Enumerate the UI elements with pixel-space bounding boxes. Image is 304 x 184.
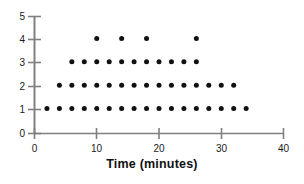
data-point: [157, 59, 162, 64]
data-point: [194, 106, 199, 111]
data-point: [231, 83, 236, 88]
data-point: [144, 83, 149, 88]
data-point-group: [44, 36, 248, 111]
data-point: [94, 106, 99, 111]
data-point: [119, 83, 124, 88]
data-point: [169, 83, 174, 88]
data-point: [181, 59, 186, 64]
x-tick-label-20: 20: [153, 143, 165, 154]
data-point: [194, 36, 199, 41]
y-tick-label-0: 0: [19, 128, 25, 139]
data-point: [231, 106, 236, 111]
x-tick-label-30: 30: [216, 143, 228, 154]
x-tick-label-0: 0: [32, 143, 38, 154]
dot-plot-chart: 5 4 3 2 1 0 0 10 20 30 40 Time (minutes): [0, 0, 304, 184]
data-point: [181, 83, 186, 88]
data-point: [219, 106, 224, 111]
data-point: [119, 106, 124, 111]
data-point: [57, 83, 62, 88]
data-point: [94, 83, 99, 88]
data-point: [169, 59, 174, 64]
data-point: [119, 59, 124, 64]
data-point: [82, 83, 87, 88]
data-point: [157, 83, 162, 88]
data-point: [144, 106, 149, 111]
data-point: [144, 59, 149, 64]
data-point: [69, 59, 74, 64]
data-point: [144, 36, 149, 41]
data-point: [107, 83, 112, 88]
data-point: [107, 59, 112, 64]
data-point: [132, 59, 137, 64]
data-point: [94, 36, 99, 41]
data-point: [169, 106, 174, 111]
data-point: [94, 59, 99, 64]
x-axis-tick-labels: 0 10 20 30 40: [32, 143, 290, 154]
data-point: [132, 83, 137, 88]
data-point: [157, 106, 162, 111]
y-axis-tick-labels: 5 4 3 2 1 0: [19, 11, 25, 139]
data-point: [244, 106, 249, 111]
data-point: [119, 36, 124, 41]
data-point: [219, 83, 224, 88]
data-point: [206, 83, 211, 88]
y-tick-label-5: 5: [19, 11, 25, 22]
y-tick-label-2: 2: [19, 81, 25, 92]
data-point: [69, 83, 74, 88]
y-tick-label-4: 4: [19, 34, 25, 45]
data-point: [181, 106, 186, 111]
data-point: [57, 106, 62, 111]
data-point: [82, 106, 87, 111]
y-tick-label-3: 3: [19, 57, 25, 68]
x-tick-label-40: 40: [278, 143, 290, 154]
data-point: [194, 83, 199, 88]
x-axis-title: Time (minutes): [0, 157, 304, 171]
data-point: [194, 59, 199, 64]
x-tick-label-10: 10: [91, 143, 103, 154]
data-point: [206, 106, 211, 111]
data-point: [69, 106, 74, 111]
data-point: [82, 59, 87, 64]
y-tick-label-1: 1: [19, 104, 25, 115]
data-point: [44, 106, 49, 111]
data-point: [107, 106, 112, 111]
data-point: [132, 106, 137, 111]
